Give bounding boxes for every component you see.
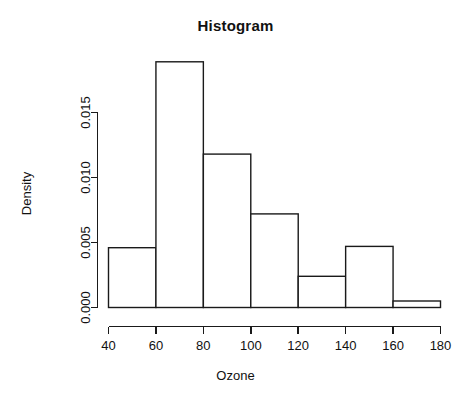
y-axis-tick-label: 0.015 — [78, 96, 93, 129]
x-axis-tick-label: 160 — [382, 338, 404, 353]
histogram-plot: Histogram Density Ozone 4060801001201401… — [0, 0, 471, 404]
histogram-bar — [251, 214, 298, 308]
y-axis-tick-label: 0.005 — [78, 226, 93, 259]
histogram-bar — [156, 62, 203, 308]
y-axis: 0.0000.0050.0100.015 — [78, 96, 97, 324]
histogram-bar — [346, 246, 393, 307]
histogram-bar — [393, 301, 440, 308]
x-axis: 406080100120140160180 — [101, 327, 451, 353]
x-axis-tick-label: 60 — [149, 338, 163, 353]
x-axis-tick-label: 140 — [335, 338, 357, 353]
y-axis-tick-label: 0.010 — [78, 161, 93, 194]
x-axis-tick-label: 180 — [430, 338, 452, 353]
histogram-bar — [298, 276, 345, 307]
histogram-bar — [109, 248, 156, 308]
plot-area: 406080100120140160180 0.0000.0050.0100.0… — [0, 0, 471, 404]
x-axis-tick-label: 100 — [240, 338, 262, 353]
x-axis-tick-label: 40 — [101, 338, 115, 353]
histogram-bars — [109, 62, 441, 308]
histogram-bar — [203, 154, 250, 307]
x-axis-tick-label: 80 — [196, 338, 210, 353]
x-axis-tick-label: 120 — [287, 338, 309, 353]
y-axis-tick-label: 0.000 — [78, 291, 93, 324]
